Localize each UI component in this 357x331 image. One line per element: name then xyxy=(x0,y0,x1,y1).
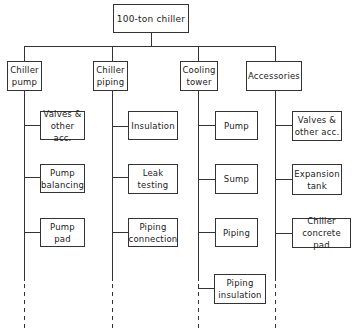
connector xyxy=(198,125,215,126)
spine-cooling-tower xyxy=(198,90,199,281)
branch-cooling-tower: Cooling tower xyxy=(180,61,218,91)
spine-accessories xyxy=(275,90,276,281)
item-valves-other-acc-2: Valves & other acc. xyxy=(292,111,342,141)
item-pump: Pump xyxy=(215,111,258,140)
item-chiller-concrete-pad: Chiller concrete pad xyxy=(292,218,351,248)
branch-chiller-pump: Chiller pump xyxy=(7,61,42,91)
item-piping-insulation: Piping insulation xyxy=(214,274,266,304)
item-pump-balancing: Pump balancing xyxy=(40,164,85,193)
connector xyxy=(198,179,215,180)
spine-chiller-pump xyxy=(24,90,25,281)
root-node: 100-ton chiller xyxy=(113,4,189,33)
connector xyxy=(275,179,292,180)
item-insulation: Insulation xyxy=(128,111,178,140)
connector xyxy=(112,126,128,127)
root-stem xyxy=(151,32,152,46)
item-pump-pad: Pump pad xyxy=(40,218,85,247)
connector xyxy=(112,232,128,233)
top-bus xyxy=(24,46,276,47)
item-leak-testing: Leak testing xyxy=(128,164,178,194)
connector xyxy=(112,177,128,178)
item-expansion-tank: Expansion tank xyxy=(292,164,342,195)
spine-continuation-chiller-pump xyxy=(24,284,25,328)
branch-accessories: Accessories xyxy=(246,61,302,91)
item-sump: Sump xyxy=(215,164,258,194)
connector xyxy=(275,233,292,234)
spine-continuation-cooling-tower xyxy=(198,284,199,328)
item-valves-other-acc: Valves & other acc. xyxy=(40,111,85,140)
branch-drop-cooling-tower xyxy=(198,46,199,62)
spine-continuation-chiller-piping xyxy=(112,284,113,328)
branch-drop-chiller-pump xyxy=(24,46,25,62)
connector xyxy=(198,288,214,289)
connector xyxy=(24,177,40,178)
branch-drop-chiller-piping xyxy=(112,46,113,62)
connector xyxy=(198,232,215,233)
branch-drop-accessories xyxy=(275,46,276,62)
branch-chiller-piping: Chiller piping xyxy=(93,61,128,91)
item-piping: Piping xyxy=(215,218,258,247)
spine-continuation-accessories xyxy=(275,284,276,328)
connector xyxy=(24,232,40,233)
connector xyxy=(24,125,40,126)
connector xyxy=(275,125,292,126)
spine-chiller-piping xyxy=(112,90,113,281)
item-piping-connection: Piping connection xyxy=(128,218,178,247)
